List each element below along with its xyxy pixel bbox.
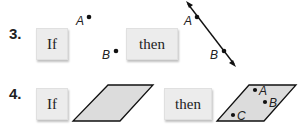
geometry-figures: A B A B A B C	[0, 0, 305, 128]
svg-text:A: A	[183, 14, 192, 28]
problem-4-then-figure: A B C	[217, 84, 296, 123]
point-label-b: B	[102, 48, 110, 62]
svg-text:B: B	[269, 96, 277, 110]
problem-4-if-figure	[73, 85, 153, 121]
problem-3-then-figure: A B	[183, 1, 236, 67]
point-label-a: A	[75, 14, 84, 28]
svg-text:A: A	[258, 84, 267, 98]
svg-text:C: C	[237, 109, 246, 123]
svg-text:B: B	[210, 48, 218, 62]
problem-3-if-figure: A B	[75, 14, 118, 62]
